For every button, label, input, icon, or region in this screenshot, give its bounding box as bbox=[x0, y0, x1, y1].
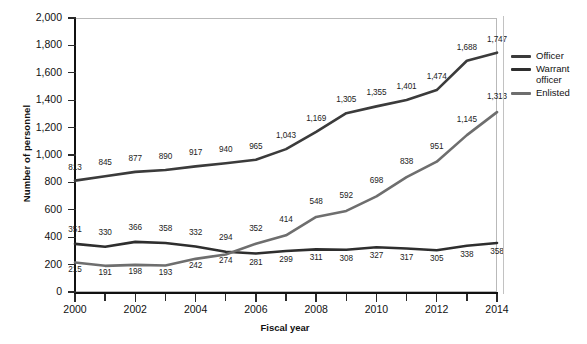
point-label: 890 bbox=[159, 152, 172, 161]
y-tick-label: 1,800 bbox=[0, 38, 62, 50]
x-tick-label: 2004 bbox=[174, 303, 218, 315]
point-label: 311 bbox=[310, 253, 323, 262]
point-label: 414 bbox=[279, 215, 292, 224]
y-tick bbox=[68, 45, 76, 46]
legend-label: Warrant officer bbox=[536, 63, 583, 86]
x-tick bbox=[135, 294, 136, 302]
x-tick bbox=[165, 294, 166, 301]
y-tick-label: 600 bbox=[0, 203, 62, 215]
point-label: 813 bbox=[68, 163, 81, 172]
y-tick bbox=[68, 100, 76, 101]
point-label: 294 bbox=[219, 233, 232, 242]
point-label: 1,313 bbox=[487, 92, 507, 101]
x-tick bbox=[496, 294, 497, 302]
point-label: 352 bbox=[249, 224, 262, 233]
point-label: 1,355 bbox=[366, 88, 386, 97]
x-tick-label: 2008 bbox=[294, 303, 338, 315]
y-tick bbox=[68, 237, 76, 238]
x-tick bbox=[466, 294, 467, 301]
y-tick bbox=[68, 17, 76, 18]
point-label: 305 bbox=[430, 254, 443, 263]
point-label: 191 bbox=[98, 268, 111, 277]
y-tick-label: 1,600 bbox=[0, 66, 62, 78]
legend-item-enlisted[interactable]: Enlisted bbox=[511, 87, 583, 99]
y-tick-label: 1,200 bbox=[0, 121, 62, 133]
x-tick bbox=[74, 294, 75, 302]
x-tick-label: 2002 bbox=[113, 303, 157, 315]
x-tick bbox=[406, 294, 407, 301]
legend-label: Enlisted bbox=[536, 87, 570, 99]
point-label: 299 bbox=[279, 255, 292, 264]
point-label: 1,747 bbox=[487, 35, 507, 44]
x-tick-label: 2012 bbox=[415, 303, 459, 315]
point-label: 358 bbox=[159, 224, 172, 233]
point-label: 838 bbox=[400, 157, 413, 166]
x-tick bbox=[315, 294, 316, 302]
legend-divider bbox=[503, 16, 504, 294]
y-tick bbox=[68, 154, 76, 155]
legend-item-warrant-officer[interactable]: Warrant officer bbox=[511, 63, 583, 86]
point-label: 198 bbox=[129, 267, 142, 276]
legend-swatch-icon bbox=[511, 92, 531, 95]
point-label: 845 bbox=[98, 158, 111, 167]
point-label: 338 bbox=[460, 250, 473, 259]
point-label: 917 bbox=[189, 148, 202, 157]
point-label: 193 bbox=[159, 268, 172, 277]
y-tick-label: 2,000 bbox=[0, 11, 62, 23]
x-tick-label: 2014 bbox=[475, 303, 519, 315]
point-label: 1,474 bbox=[427, 72, 447, 81]
x-tick bbox=[346, 294, 347, 301]
point-label: 877 bbox=[129, 154, 142, 163]
point-label: 698 bbox=[370, 176, 383, 185]
legend-swatch-icon bbox=[511, 55, 531, 58]
y-tick-label: 400 bbox=[0, 230, 62, 242]
y-tick bbox=[68, 182, 76, 183]
point-label: 951 bbox=[430, 142, 443, 151]
x-tick bbox=[255, 294, 256, 302]
x-tick bbox=[225, 294, 226, 301]
point-label: 327 bbox=[370, 251, 383, 260]
x-tick-label: 2000 bbox=[53, 303, 97, 315]
legend-swatch-icon bbox=[511, 68, 531, 71]
y-tick-label: 1,000 bbox=[0, 148, 62, 160]
point-label: 242 bbox=[189, 261, 202, 270]
line-chart: Number of personnel 02004006008001,0001,… bbox=[0, 0, 587, 344]
point-label: 366 bbox=[129, 223, 142, 232]
legend: OfficerWarrant officerEnlisted bbox=[511, 50, 583, 99]
x-tick bbox=[285, 294, 286, 301]
point-label: 592 bbox=[340, 191, 353, 200]
x-tick bbox=[436, 294, 437, 302]
point-label: 330 bbox=[98, 228, 111, 237]
legend-label: Officer bbox=[536, 50, 564, 62]
y-tick bbox=[68, 72, 76, 73]
x-tick-label: 2006 bbox=[234, 303, 278, 315]
y-tick-label: 0 bbox=[0, 285, 62, 297]
y-tick bbox=[68, 209, 76, 210]
point-label: 308 bbox=[340, 254, 353, 263]
point-label: 1,401 bbox=[397, 82, 417, 91]
point-label: 940 bbox=[219, 145, 232, 154]
point-label: 332 bbox=[189, 228, 202, 237]
x-axis-title: Fiscal year bbox=[72, 322, 498, 333]
y-tick-label: 1,400 bbox=[0, 93, 62, 105]
x-tick bbox=[376, 294, 377, 302]
point-label: 965 bbox=[249, 142, 262, 151]
y-tick-label: 800 bbox=[0, 175, 62, 187]
y-tick-label: 200 bbox=[0, 258, 62, 270]
point-label: 1,305 bbox=[336, 95, 356, 104]
legend-item-officer[interactable]: Officer bbox=[511, 50, 583, 62]
x-tick bbox=[104, 294, 105, 301]
point-label: 317 bbox=[400, 253, 413, 262]
x-tick bbox=[195, 294, 196, 302]
point-label: 215 bbox=[68, 265, 81, 274]
y-tick bbox=[68, 291, 76, 292]
y-tick bbox=[68, 127, 76, 128]
point-label: 358 bbox=[490, 247, 503, 256]
point-label: 274 bbox=[219, 256, 232, 265]
x-tick-label: 2010 bbox=[354, 303, 398, 315]
point-label: 1,043 bbox=[276, 131, 296, 140]
point-label: 548 bbox=[309, 197, 322, 206]
point-label: 281 bbox=[249, 258, 262, 267]
point-label: 1,169 bbox=[306, 114, 326, 123]
point-label: 1,688 bbox=[457, 43, 477, 52]
